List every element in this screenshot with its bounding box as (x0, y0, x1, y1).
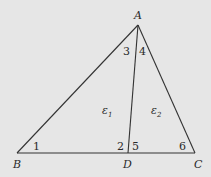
region-label-e1: ε1 (102, 104, 112, 119)
angle-label-2: 2 (117, 140, 124, 153)
side-ac (138, 25, 195, 153)
vertex-label-b: B (12, 158, 21, 171)
region-label-e2: ε2 (151, 104, 162, 119)
vertex-label-c: C (194, 158, 203, 171)
vertex-label-d: D (122, 158, 132, 171)
angle-label-3: 3 (123, 45, 130, 58)
triangle-diagram: A B C D 1 2 3 4 5 6 ε1 ε2 (0, 0, 211, 177)
side-ab (17, 25, 138, 153)
vertex-label-a: A (133, 9, 142, 22)
angle-label-5: 5 (132, 140, 139, 153)
angle-label-1: 1 (33, 140, 40, 153)
angle-label-6: 6 (179, 140, 186, 153)
angle-label-4: 4 (139, 45, 146, 58)
